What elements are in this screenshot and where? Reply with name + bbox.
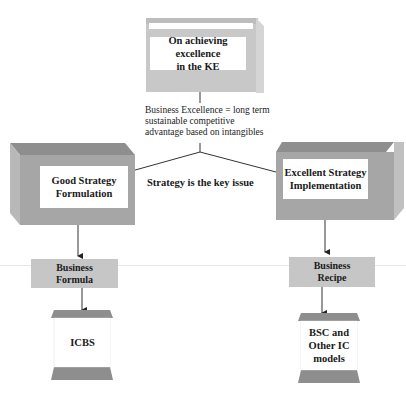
right-box-line1: Excellent Strategy [285,166,367,179]
left-bottom-box: ICBS [55,318,110,367]
right-box-line2: Implementation [285,179,367,192]
left-mid-line2: Formula [56,274,93,286]
top-title-line1: On achieving excellence [150,34,246,60]
left-box-line1: Good Strategy [51,174,116,187]
left-box-title: Good Strategy Formulation [40,166,128,208]
top-box-title: On achieving excellence in the KE [150,37,246,70]
definition-note: Business Excellence = long term sustaina… [145,105,315,138]
right-bottom-line2: Other IC [309,339,350,352]
definition-line1: Business Excellence = long term [145,105,315,116]
right-box-title: Excellent Strategy Implementation [283,159,368,199]
left-mid-box: Business Formula [31,259,118,288]
right-mid-line2: Recipe [314,272,351,284]
right-mid-line1: Business [314,260,351,272]
right-bottom-box: BSC and Other IC models [301,321,357,370]
top-title-line2: in the KE [150,60,246,73]
center-label: Strategy is the key issue [147,177,254,188]
left-box-line2: Formulation [51,187,116,200]
left-mid-line1: Business [56,262,93,274]
definition-line3: advantage based on intangibles [145,127,315,138]
right-bottom-line3: models [309,352,350,365]
definition-line2: sustainable competitive [145,116,315,127]
right-mid-box: Business Recipe [289,257,375,287]
right-bottom-line1: BSC and [309,326,350,339]
